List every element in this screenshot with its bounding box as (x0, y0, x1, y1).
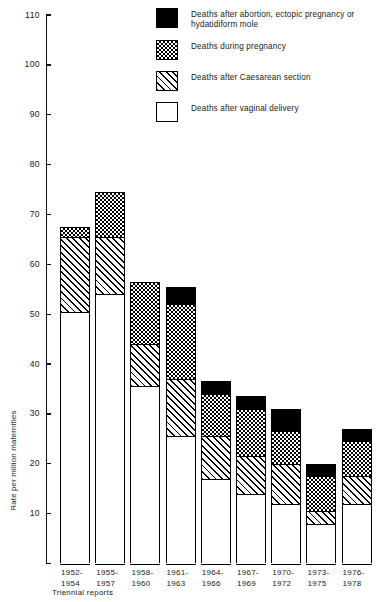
x-tick-label: 1952- 1954 (61, 568, 83, 589)
bar (236, 396, 266, 563)
bar (342, 429, 372, 564)
y-tick-label: 40 (14, 359, 40, 369)
y-tick-label: 50 (14, 309, 40, 319)
x-tick-label: 1958- 1960 (131, 568, 153, 589)
bar-segment (237, 495, 265, 564)
bar-segment (343, 442, 371, 477)
bar-segment (131, 283, 159, 345)
bar-baseline (95, 564, 125, 565)
bar-segment (202, 395, 230, 437)
y-tick-label: 90 (14, 109, 40, 119)
x-tick-label: 1964- 1966 (202, 568, 224, 589)
y-tick-label: 110 (14, 10, 40, 20)
bar-segment (167, 288, 195, 305)
bar-segment (272, 465, 300, 505)
bar-segment (237, 410, 265, 457)
bar-baseline (130, 564, 160, 565)
y-tick-label: 30 (14, 408, 40, 418)
bar (95, 192, 125, 563)
y-tick (46, 563, 51, 564)
y-tick-label: 70 (14, 209, 40, 219)
y-tick (46, 64, 51, 65)
y-tick (46, 114, 51, 115)
bar (271, 409, 301, 564)
bar (60, 227, 90, 564)
x-tick-label: 1955- 1957 (96, 568, 118, 589)
bar-segment (272, 410, 300, 432)
bar-segment (167, 380, 195, 437)
bar-segment (167, 437, 195, 563)
x-tick-label: 1970- 1972 (272, 568, 294, 589)
bar-segment (202, 437, 230, 479)
bar-segment (96, 295, 124, 563)
x-tick-label: 1961- 1963 (167, 568, 189, 589)
bar-baseline (166, 564, 196, 565)
y-tick (46, 264, 51, 265)
bar-segment (131, 345, 159, 387)
y-tick (46, 363, 51, 364)
bar-segment (343, 430, 371, 442)
bar (130, 282, 160, 564)
chart-root: Deaths after abortion, ectopic pregnancy… (0, 0, 385, 602)
bar-segment (272, 505, 300, 564)
bar-segment (202, 382, 230, 394)
bar-segment (202, 480, 230, 564)
bar-segment (343, 477, 371, 504)
bar-segment (167, 305, 195, 380)
bar-segment (307, 512, 335, 524)
y-tick (46, 513, 51, 514)
bar-baseline (306, 564, 336, 565)
bar-segment (343, 505, 371, 564)
x-axis-title: Triennial reports (52, 588, 113, 597)
y-tick (46, 413, 51, 414)
bar-segment (272, 432, 300, 464)
y-tick (46, 463, 51, 464)
bar-segment (307, 477, 335, 512)
bar-segment (61, 313, 89, 564)
bar-baseline (60, 564, 90, 565)
y-tick-label: 10 (14, 508, 40, 518)
bar-segment (307, 465, 335, 477)
bar-segment (96, 238, 124, 295)
bar-segment (61, 238, 89, 313)
bar-segment (61, 228, 89, 238)
bar-baseline (271, 564, 301, 565)
x-tick-label: 1976- 1978 (343, 568, 365, 589)
bar-baseline (236, 564, 266, 565)
y-tick (46, 14, 51, 15)
x-tick-label: 1973- 1975 (307, 568, 329, 589)
bar (201, 381, 231, 563)
bar-segment (237, 397, 265, 409)
y-tick (46, 214, 51, 215)
bar-segment (96, 193, 124, 238)
y-axis-title: Rate per million maternities (9, 401, 18, 521)
y-tick-label: 20 (14, 458, 40, 468)
bar-baseline (201, 564, 231, 565)
y-tick (46, 314, 51, 315)
y-tick-label: 60 (14, 259, 40, 269)
y-axis-line (46, 15, 47, 564)
bar-segment (131, 387, 159, 563)
y-tick (46, 164, 51, 165)
x-tick-label: 1967- 1969 (237, 568, 259, 589)
bar (306, 464, 336, 564)
plot-area: 102030405060708090100110 Rate per millio… (0, 0, 385, 602)
y-tick-label: 100 (14, 59, 40, 69)
y-tick-label: 80 (14, 159, 40, 169)
bar-segment (237, 457, 265, 494)
bar-segment (307, 525, 335, 564)
bar (166, 287, 196, 564)
bar-baseline (342, 564, 372, 565)
